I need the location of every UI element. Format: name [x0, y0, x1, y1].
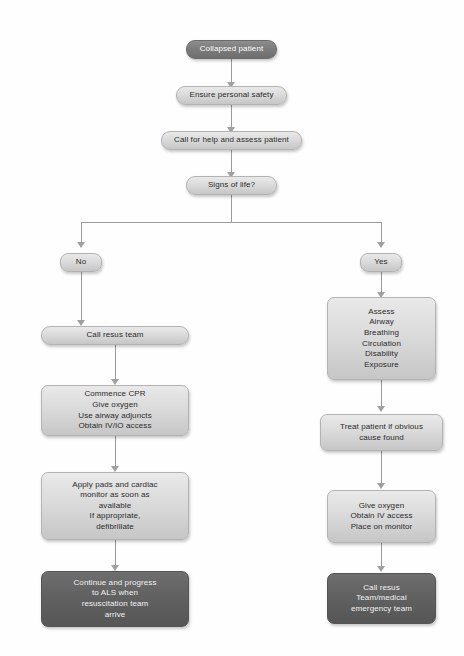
node-label: Signs of life?	[187, 180, 276, 191]
node-abcde-assessment[interactable]: Assess Airway Breathing Circulation Disa…	[327, 297, 436, 380]
node-apply-pads[interactable]: Apply pads and cardiac monitor as soon a…	[41, 472, 189, 540]
connector-split-to-no	[81, 222, 82, 244]
node-branch-yes[interactable]: Yes	[360, 253, 402, 272]
arrowhead-oxygen	[377, 483, 385, 489]
node-label-line: emergency team	[328, 604, 435, 615]
node-label-line: Team/medical	[328, 593, 435, 604]
node-label-line: Give oxygen	[42, 400, 188, 411]
node-label: Call for help and assess patient	[162, 135, 301, 146]
node-continue-to-als[interactable]: Continue and progress to ALS when resusc…	[41, 571, 189, 627]
node-label-line: Airway	[328, 317, 435, 328]
connector-callresus-to-cpr	[115, 345, 116, 381]
node-signs-of-life[interactable]: Signs of life?	[186, 176, 277, 195]
connector-treat-to-oxygen	[381, 451, 382, 485]
node-label-line: resuscitation team	[42, 599, 188, 610]
connector-cpr-to-pads	[115, 436, 116, 468]
node-label-line: monitor as soon as	[42, 490, 188, 501]
node-label-line: Continue and progress	[42, 578, 188, 589]
node-label-line: cause found	[321, 433, 442, 444]
node-label: Collapsed patient	[187, 44, 276, 55]
node-label: Call resus team	[42, 330, 188, 341]
node-label-line: Assess	[328, 307, 435, 318]
node-label-line: Exposure	[328, 360, 435, 371]
node-label-line: Commence CPR	[42, 389, 188, 400]
node-label-line: Obtain IV/IO access	[42, 421, 188, 432]
connector-yes-to-abcde	[381, 272, 382, 294]
node-label: No	[61, 257, 101, 268]
connector-split-bar	[81, 222, 382, 223]
node-label-line: available	[42, 501, 188, 512]
node-label-line: If appropriate,	[42, 511, 188, 522]
node-label-line: defibrillate	[42, 522, 188, 533]
node-call-resus-medical-emergency-team[interactable]: Call resus Team/medical emergency team	[327, 573, 436, 624]
node-label-line: Use airway adjuncts	[42, 411, 188, 422]
connector-safety-to-callhelp	[231, 105, 232, 129]
node-label-line: Apply pads and cardiac	[42, 480, 188, 491]
arrowhead-yes	[377, 242, 385, 248]
connector-split-to-yes	[381, 222, 382, 244]
node-label-line: Treat patient if obvious	[321, 422, 442, 433]
node-label-line: to ALS when	[42, 588, 188, 599]
arrowhead-treat	[377, 406, 385, 412]
connector-collapsed-to-safety	[231, 59, 232, 84]
connector-abcde-to-treat	[381, 380, 382, 408]
node-call-resus-team[interactable]: Call resus team	[41, 326, 189, 345]
node-label-line: Give oxygen	[328, 501, 435, 512]
node-branch-no[interactable]: No	[60, 253, 102, 272]
connector-signs-to-split	[231, 195, 232, 222]
arrowhead-callresus2	[377, 566, 385, 572]
node-ensure-personal-safety[interactable]: Ensure personal safety	[176, 86, 287, 105]
node-label-line: Call resus	[328, 583, 435, 594]
node-collapsed-patient[interactable]: Collapsed patient	[186, 40, 277, 59]
node-commence-cpr[interactable]: Commence CPR Give oxygen Use airway adju…	[41, 385, 189, 436]
node-label: Ensure personal safety	[177, 90, 286, 101]
connector-callhelp-to-signs	[231, 150, 232, 174]
node-label-line: Obtain IV access	[328, 511, 435, 522]
node-label: Yes	[361, 257, 401, 268]
arrowhead-no	[77, 242, 85, 248]
connector-pads-to-als	[115, 540, 116, 567]
node-label-line: Circulation	[328, 339, 435, 350]
flowchart-canvas: Collapsed patient Ensure personal safety…	[0, 0, 464, 656]
node-call-for-help[interactable]: Call for help and assess patient	[161, 131, 302, 150]
node-treat-patient[interactable]: Treat patient if obvious cause found	[320, 414, 443, 451]
node-label-line: Place on monitor	[328, 522, 435, 533]
node-give-oxygen[interactable]: Give oxygen Obtain IV access Place on mo…	[327, 490, 436, 543]
connector-no-to-callresus	[81, 272, 82, 322]
connector-oxygen-to-callresus2	[381, 543, 382, 568]
node-label-line: Disability	[328, 349, 435, 360]
node-label-line: arrive	[42, 610, 188, 621]
node-label-line: Breathing	[328, 328, 435, 339]
